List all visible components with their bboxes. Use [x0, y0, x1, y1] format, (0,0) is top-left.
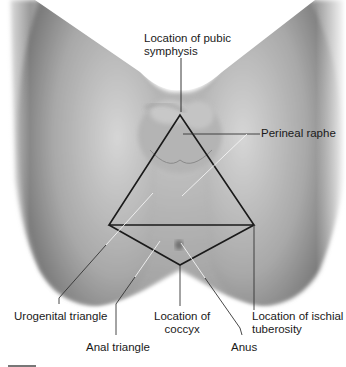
- label-ischial-tuberosity-line1: Location of ischial: [252, 310, 343, 322]
- label-coccyx-line1: Location of: [154, 310, 210, 322]
- label-ischial-tuberosity-line2: tuberosity: [252, 323, 343, 336]
- label-urogenital-triangle: Urogenital triangle: [14, 310, 107, 323]
- label-ischial-tuberosity: Location of ischial tuberosity: [252, 310, 343, 336]
- label-perineal-raphe: Perineal raphe: [261, 127, 336, 140]
- label-anus-text: Anus: [231, 341, 257, 353]
- perineum-diagram: Location of pubic symphysis Perineal rap…: [0, 0, 346, 367]
- label-pubic-symphysis-line1: Location of pubic: [144, 32, 231, 44]
- label-coccyx: Location of coccyx: [154, 310, 210, 336]
- label-coccyx-line2: coccyx: [154, 323, 210, 336]
- label-perineal-raphe-text: Perineal raphe: [261, 127, 336, 139]
- label-anal-triangle-text: Anal triangle: [86, 341, 150, 353]
- label-pubic-symphysis: Location of pubic symphysis: [144, 32, 231, 58]
- label-anus: Anus: [231, 341, 257, 354]
- label-anal-triangle: Anal triangle: [86, 341, 150, 354]
- label-pubic-symphysis-line2: symphysis: [144, 45, 231, 58]
- label-urogenital-triangle-text: Urogenital triangle: [14, 310, 107, 322]
